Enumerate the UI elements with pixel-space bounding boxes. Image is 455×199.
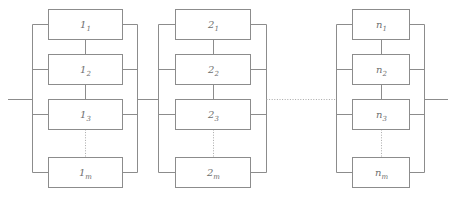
group-n: n1 n2 n3 nm bbox=[337, 10, 425, 188]
group-2: 21 22 23 2m bbox=[159, 10, 267, 188]
diagram-canvas: 11 12 13 1m 21 22 bbox=[0, 0, 455, 199]
group-1: 11 12 13 1m bbox=[33, 10, 138, 188]
reliability-block-diagram: 11 12 13 1m 21 22 bbox=[0, 0, 455, 199]
